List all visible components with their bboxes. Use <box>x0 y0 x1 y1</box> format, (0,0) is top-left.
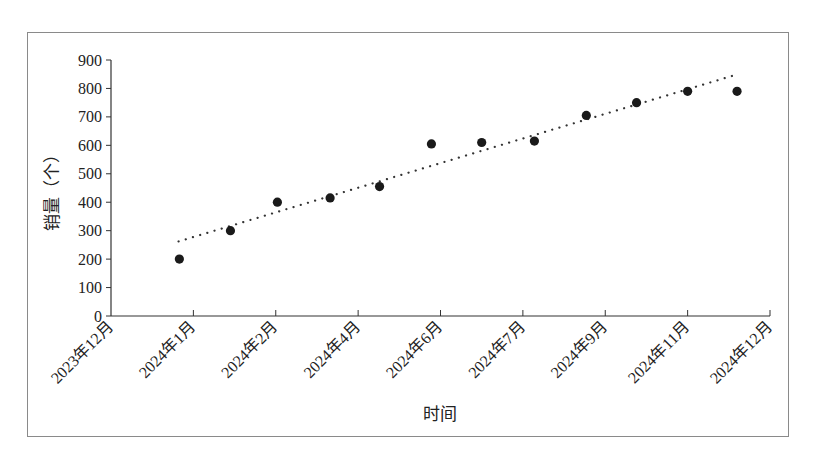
y-tick-label: 200 <box>78 251 102 268</box>
data-point <box>683 87 692 96</box>
data-point <box>632 98 641 107</box>
data-point <box>732 87 741 96</box>
y-tick-label: 400 <box>78 194 102 211</box>
x-tick-label: 2024年9月 <box>547 318 610 381</box>
y-tick-label: 900 <box>78 52 102 69</box>
y-tick-label: 100 <box>78 279 102 296</box>
y-tick-label: 300 <box>78 222 102 239</box>
y-axis-ticks: 0100200300400500600700800900 <box>78 52 111 325</box>
x-tick-label: 2024年6月 <box>383 318 446 381</box>
trendline-dotted <box>179 74 738 241</box>
y-axis-title: 销量（个） <box>43 146 62 231</box>
data-point <box>375 182 384 191</box>
x-tick-label: 2024年7月 <box>465 318 528 381</box>
data-point <box>477 138 486 147</box>
data-point <box>427 139 436 148</box>
data-points <box>175 87 742 264</box>
x-tick-label: 2024年11月 <box>625 318 693 386</box>
y-tick-label: 600 <box>78 137 102 154</box>
data-point <box>326 193 335 202</box>
scatter-chart: 0100200300400500600700800900 2023年12月202… <box>0 0 814 467</box>
data-point <box>226 226 235 235</box>
data-point <box>582 111 591 120</box>
axes <box>111 60 770 316</box>
trendline <box>179 74 738 241</box>
data-point <box>175 255 184 264</box>
x-tick-label: 2023年12月 <box>48 318 117 387</box>
y-tick-label: 800 <box>78 80 102 97</box>
x-tick-label: 2024年12月 <box>707 318 776 387</box>
x-axis-title: 时间 <box>423 405 457 424</box>
data-point <box>273 198 282 207</box>
x-tick-label: 2024年4月 <box>300 318 363 381</box>
data-point <box>530 136 539 145</box>
x-tick-label: 2024年2月 <box>218 318 281 381</box>
x-tick-label: 2024年1月 <box>136 318 199 381</box>
y-tick-label: 500 <box>78 165 102 182</box>
y-tick-label: 700 <box>78 108 102 125</box>
x-axis-ticks: 2023年12月2024年1月2024年2月2024年4月2024年6月2024… <box>48 310 776 387</box>
